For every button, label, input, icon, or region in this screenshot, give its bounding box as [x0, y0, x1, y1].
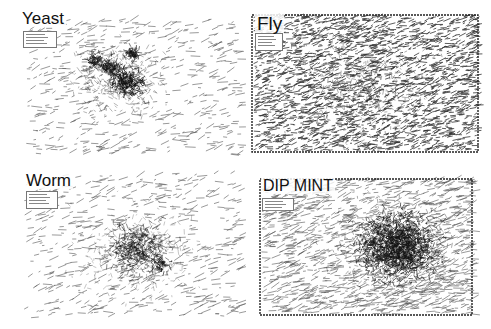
- panel-yeast: Yeast: [0, 0, 246, 162]
- panel-title: Fly: [255, 14, 284, 33]
- panel-title: DIP MINT: [261, 178, 335, 194]
- panel-title: Worm: [24, 172, 73, 189]
- edge-layer: [253, 14, 483, 152]
- cluster: [150, 256, 172, 276]
- panel-title: Yeast: [20, 10, 66, 27]
- panel-fly: Fly: [247, 0, 491, 162]
- legend-box: [26, 191, 58, 209]
- legend-box: [262, 198, 294, 211]
- legend-box: [255, 33, 283, 51]
- panel-worm: Worm: [0, 165, 246, 329]
- legend-box: [23, 31, 57, 48]
- panel-dip-mint: DIP MINT: [247, 165, 491, 329]
